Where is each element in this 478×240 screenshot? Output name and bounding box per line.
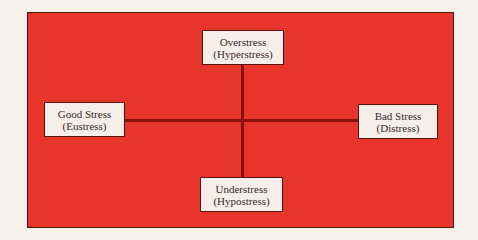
vertical-axis-line: [241, 65, 244, 178]
eustress-label: (Eustress): [63, 120, 107, 132]
overstress-label: Overstress: [220, 36, 266, 48]
overstress-box: Overstress (Hyperstress): [202, 30, 284, 65]
bad-stress-box: Bad Stress (Distress): [358, 104, 438, 139]
good-stress-box: Good Stress (Eustress): [44, 102, 125, 137]
understress-box: Understress (Hypostress): [200, 177, 283, 212]
bad-stress-label: Bad Stress: [375, 110, 422, 122]
understress-label: Understress: [216, 183, 268, 195]
good-stress-label: Good Stress: [58, 108, 111, 120]
distress-label: (Distress): [377, 122, 420, 134]
hyperstress-label: (Hyperstress): [213, 48, 272, 60]
hypostress-label: (Hypostress): [213, 195, 269, 207]
